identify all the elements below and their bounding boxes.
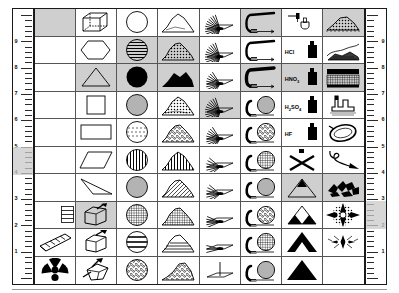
hook-pipe-wide-icon: [241, 9, 281, 36]
sierpinski-triangle-icon: [282, 229, 322, 256]
mound-low-outline-icon: [158, 9, 198, 36]
grid-cell-52[interactable]: [241, 37, 282, 65]
grid-cell-24[interactable]: [117, 92, 158, 120]
grid-cell-6[interactable]: [35, 147, 76, 175]
grid-cell-58[interactable]: [241, 202, 282, 230]
roman-numeral-vii-icon: [35, 174, 75, 201]
grid-cell-3[interactable]: [35, 64, 76, 92]
grid-cell-2[interactable]: [35, 37, 76, 65]
grid-cell-19[interactable]: [76, 229, 117, 257]
grid-cell-73[interactable]: [323, 64, 364, 92]
grid-cell-28[interactable]: [117, 202, 158, 230]
grid-cell-44[interactable]: [200, 92, 241, 120]
grid-cell-9[interactable]: [35, 229, 76, 257]
grid-cell-43[interactable]: [200, 64, 241, 92]
grid-cell-35[interactable]: [158, 119, 199, 147]
grid-cell-17[interactable]: [76, 174, 117, 202]
grid-cell-53[interactable]: [241, 64, 282, 92]
grid-cell-78[interactable]: [323, 202, 364, 230]
grid-cell-57[interactable]: [241, 174, 282, 202]
grid-cell-49[interactable]: [200, 229, 241, 257]
grid-cell-4[interactable]: [35, 92, 76, 120]
grid-cell-75[interactable]: [323, 119, 364, 147]
grid-cell-39[interactable]: [158, 229, 199, 257]
grid-cell-48[interactable]: [200, 202, 241, 230]
grid-cell-38[interactable]: [158, 202, 199, 230]
grid-cell-51[interactable]: [241, 9, 282, 37]
grid-cell-13[interactable]: [76, 64, 117, 92]
grid-cell-42[interactable]: [200, 37, 241, 65]
grid-cell-34[interactable]: [158, 92, 199, 120]
hook-with-circle-lines-icon: [241, 257, 281, 285]
grid-cell-50[interactable]: [200, 257, 241, 285]
grid-cell-64[interactable]: H2SO4: [282, 92, 323, 120]
grid-cell-1[interactable]: [35, 9, 76, 37]
grid-cell-41[interactable]: [200, 9, 241, 37]
footer-divider: [12, 289, 387, 290]
grid-cell-55[interactable]: [241, 119, 282, 147]
grid-cell-30[interactable]: [117, 257, 158, 285]
grid-cell-33[interactable]: [158, 64, 199, 92]
grid-cell-80[interactable]: [323, 257, 364, 285]
grid-cell-65[interactable]: HF: [282, 119, 323, 147]
triangle-solid-black-icon: [282, 257, 322, 285]
grid-cell-31[interactable]: [158, 9, 199, 37]
grid-cell-47[interactable]: [200, 174, 241, 202]
side-ladder-icon: [61, 206, 74, 227]
grid-cell-7[interactable]: [35, 174, 76, 202]
grid-cell-68[interactable]: [282, 202, 323, 230]
circle-wide-bands-icon: [117, 229, 157, 256]
grid-cell-71[interactable]: [323, 9, 364, 37]
grid-cell-32[interactable]: [158, 37, 199, 65]
grid-cell-72[interactable]: [323, 37, 364, 65]
thin-wedge-outline-icon: [76, 174, 116, 201]
grid-cell-69[interactable]: [282, 229, 323, 257]
grid-cell-21[interactable]: [117, 9, 158, 37]
grid-cell-18[interactable]: [76, 202, 117, 230]
circle-fine-vertical-icon: [117, 174, 157, 201]
spray-narrow-icon: [200, 202, 240, 229]
chemical-formula-label: HCl: [285, 49, 294, 55]
grid-cell-25[interactable]: [117, 119, 158, 147]
grid-cell-76[interactable]: [323, 147, 364, 175]
grid-cell-11[interactable]: [76, 9, 117, 37]
grid-cell-8[interactable]: [35, 202, 76, 230]
grid-cell-27[interactable]: [117, 174, 158, 202]
grid-cell-54[interactable]: [241, 92, 282, 120]
grid-cell-40[interactable]: [158, 257, 199, 285]
grid-cell-26[interactable]: [117, 147, 158, 175]
spray-fan-dense-icon: [200, 9, 240, 36]
grid-cell-20[interactable]: [76, 257, 117, 285]
hook-with-circle-grid-icon: [241, 147, 281, 174]
grid-cell-61[interactable]: [282, 9, 323, 37]
grid-cell-77[interactable]: [323, 174, 364, 202]
grid-cell-15[interactable]: [76, 119, 117, 147]
grid-cell-37[interactable]: [158, 174, 199, 202]
grid-cell-70[interactable]: [282, 257, 323, 285]
grid-cell-16[interactable]: [76, 147, 117, 175]
mound-solid-black-icon: [158, 64, 198, 91]
hexagon-outline-icon: [76, 37, 116, 64]
grid-cell-23[interactable]: [117, 64, 158, 92]
roman-numeral-vi-icon: [35, 147, 75, 174]
grid-cell-62[interactable]: HCl: [282, 37, 323, 65]
grid-cell-29[interactable]: [117, 229, 158, 257]
grid-cell-59[interactable]: [241, 229, 282, 257]
grid-cell-63[interactable]: HNO3: [282, 64, 323, 92]
grid-cell-22[interactable]: [117, 37, 158, 65]
radiation-trefoil-icon: [35, 257, 75, 285]
grid-cell-74[interactable]: [323, 92, 364, 120]
grid-cell-5[interactable]: [35, 119, 76, 147]
grid-cell-12[interactable]: [76, 37, 117, 65]
grid-cell-66[interactable]: [282, 147, 323, 175]
grid-cell-36[interactable]: [158, 147, 199, 175]
grid-cell-60[interactable]: [241, 257, 282, 285]
grid-cell-14[interactable]: [76, 92, 117, 120]
grid-cell-46[interactable]: [200, 147, 241, 175]
grid-cell-67[interactable]: [282, 174, 323, 202]
grid-cell-10[interactable]: [35, 257, 76, 285]
grid-cell-56[interactable]: [241, 147, 282, 175]
circle-outline-icon: [117, 9, 157, 36]
grid-cell-79[interactable]: [323, 229, 364, 257]
grid-cell-45[interactable]: [200, 119, 241, 147]
